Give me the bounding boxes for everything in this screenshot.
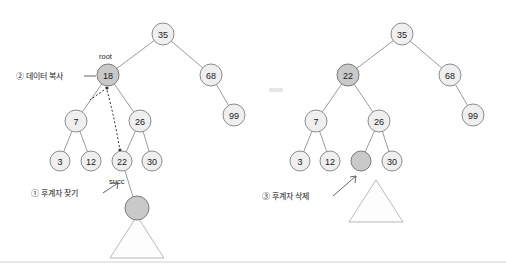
left-node-subtree-root[interactable] (125, 196, 149, 220)
node-label: 68 (445, 71, 455, 81)
left-node-7[interactable]: 7 (65, 110, 87, 132)
node-label: 35 (158, 30, 168, 40)
node-label: 30 (387, 157, 397, 167)
successor-copy-path (90, 86, 122, 151)
annotation-delete-successor-arrow (333, 176, 356, 196)
left-node-35[interactable]: 35 (152, 23, 174, 45)
node-label: 22 (117, 157, 127, 167)
right-node-22-promoted[interactable]: 22 (337, 64, 359, 86)
node-label: 30 (147, 157, 157, 167)
right-node-3[interactable]: 3 (290, 151, 310, 171)
bst-successor-deletion-diagram: 35 18 68 99 7 26 (0, 0, 506, 270)
node-circle[interactable] (125, 196, 149, 220)
node-label: 68 (206, 71, 216, 81)
left-node-18-target[interactable]: 18 (97, 64, 119, 86)
annotation-find-successor: ① 후계자 찾기 (31, 188, 78, 198)
succ-label: succ (109, 177, 125, 186)
node-label: 99 (229, 111, 239, 121)
right-node-99[interactable]: 99 (462, 104, 484, 126)
node-label: 35 (397, 30, 407, 40)
right-node-12[interactable]: 12 (320, 151, 340, 171)
annotation-copy-data: ② 데이터 복사 (16, 71, 64, 81)
node-label: 12 (86, 157, 96, 167)
root-label: root (99, 52, 113, 61)
left-node-3[interactable]: 3 (50, 151, 70, 171)
annotation-delete-successor: ③ 후계자 삭제 (262, 191, 309, 201)
node-label: 3 (297, 157, 302, 167)
node-label: 26 (374, 117, 384, 127)
node-circle[interactable] (351, 151, 371, 171)
node-label: 12 (325, 157, 335, 167)
node-label: 22 (343, 71, 353, 81)
left-node-99[interactable]: 99 (223, 104, 245, 126)
left-node-22-successor[interactable]: 22 (112, 151, 132, 171)
left-node-26[interactable]: 26 (129, 110, 151, 132)
right-node-7[interactable]: 7 (305, 110, 327, 132)
right-tree-edges (300, 34, 473, 161)
left-node-12[interactable]: 12 (81, 151, 101, 171)
figure-canvas: 35 18 68 99 7 26 (0, 0, 506, 270)
dot-marker-top (105, 86, 108, 89)
dotted-copy-arrow (106, 87, 120, 151)
left-subtree-triangle (110, 216, 164, 258)
right-node-deleted-successor[interactable] (351, 151, 371, 171)
right-node-68[interactable]: 68 (439, 64, 461, 86)
node-label: 18 (103, 71, 113, 81)
node-label: 3 (57, 157, 62, 167)
node-label: 7 (313, 117, 318, 127)
right-tree: 35 22 68 99 7 26 (262, 23, 484, 222)
node-label: 99 (468, 111, 478, 121)
node-label: 26 (135, 117, 145, 127)
node-label: 7 (73, 117, 78, 127)
right-node-30[interactable]: 30 (382, 151, 402, 171)
right-subtree-triangle (349, 180, 403, 222)
left-node-30[interactable]: 30 (142, 151, 162, 171)
right-node-35[interactable]: 35 (391, 23, 413, 45)
separator-arrow (269, 88, 283, 92)
right-node-26[interactable]: 26 (368, 110, 390, 132)
left-node-68[interactable]: 68 (200, 64, 222, 86)
left-tree: 35 18 68 99 7 26 (16, 23, 245, 258)
step-separator (269, 88, 283, 92)
